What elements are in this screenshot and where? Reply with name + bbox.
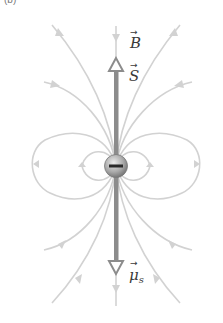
label-mu: μs xyxy=(129,268,144,283)
label-S: S xyxy=(129,69,139,84)
arrowhead-bottom-center xyxy=(112,285,120,293)
spin-shaft xyxy=(114,70,119,156)
figure-corner-label: (b) xyxy=(4,0,16,5)
arrowhead-small-loop-left xyxy=(78,162,86,167)
mu-symbol: μ xyxy=(129,266,139,284)
arrowhead-bottom-left xyxy=(75,274,82,284)
mu-subscript: s xyxy=(139,274,144,285)
field-lines-svg xyxy=(0,0,223,323)
magnetic-moment-vector xyxy=(109,176,123,274)
negative-charge-icon xyxy=(109,165,123,168)
label-B: B xyxy=(130,36,141,51)
spin-arrowhead-icon xyxy=(109,58,123,71)
field-loop-large-right xyxy=(116,133,200,199)
field-loop-large-left xyxy=(32,133,116,199)
electron-spin-diagram: (b) xyxy=(0,0,223,323)
arrowhead-mid-lower-left xyxy=(58,240,66,249)
arrowhead-loop-left xyxy=(33,160,39,168)
spin-vector-S xyxy=(109,58,123,156)
arrowhead-small-loop-right xyxy=(146,162,154,167)
arrowhead-mid-lower-right xyxy=(168,240,176,249)
arrowhead-bottom-right xyxy=(153,274,160,284)
arrowhead-top-center xyxy=(112,34,120,42)
moment-shaft xyxy=(114,176,119,264)
moment-arrowhead-icon xyxy=(109,261,123,274)
